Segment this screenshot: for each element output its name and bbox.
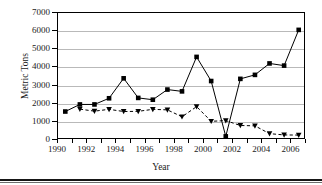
y-axis-title: Metric Tons xyxy=(20,33,30,119)
data-point xyxy=(78,102,83,107)
x-tick-label: 1990 xyxy=(48,145,66,154)
x-tick-label: 1998 xyxy=(165,145,183,154)
x-tick-mark xyxy=(261,139,262,143)
x-tick-mark xyxy=(130,139,131,143)
y-tick-label: 1000 xyxy=(32,116,50,125)
series-2 xyxy=(77,104,301,138)
data-point xyxy=(136,96,141,101)
x-tick-label: 2004 xyxy=(252,145,270,154)
x-tick-mark xyxy=(232,139,233,143)
x-tick-label: 1994 xyxy=(106,145,124,154)
x-tick-mark xyxy=(203,139,204,143)
x-tick-mark xyxy=(145,139,146,143)
bottom-rule xyxy=(0,179,322,181)
y-tick-label: 6000 xyxy=(32,26,50,35)
x-tick-mark xyxy=(247,139,248,143)
x-tick-label: 2000 xyxy=(194,145,212,154)
data-point xyxy=(180,89,185,94)
data-point xyxy=(179,114,185,119)
data-point xyxy=(282,63,287,68)
data-point xyxy=(267,61,272,66)
data-point xyxy=(238,77,243,82)
line-chart-figure: 01000200030004000500060007000 Metric Ton… xyxy=(0,0,322,185)
x-tick-mark xyxy=(305,139,306,143)
y-tick-label: 3000 xyxy=(32,80,50,89)
x-tick-mark xyxy=(72,139,73,143)
x-tick-mark xyxy=(101,139,102,143)
data-point xyxy=(223,134,228,139)
bottom-rule-shadow xyxy=(0,182,322,183)
data-point xyxy=(208,119,214,124)
x-tick-label: 2006 xyxy=(281,145,299,154)
y-tick-label: 0 xyxy=(46,135,51,144)
data-point xyxy=(106,107,112,112)
x-tick-mark xyxy=(86,139,87,143)
x-tick-mark xyxy=(290,139,291,143)
x-tick-mark xyxy=(174,139,175,143)
data-point xyxy=(194,55,199,60)
data-point xyxy=(121,76,126,81)
data-point xyxy=(267,131,273,136)
y-tick-label: 5000 xyxy=(32,44,50,53)
data-point xyxy=(63,109,68,114)
data-point xyxy=(253,73,258,78)
series-line xyxy=(65,30,298,136)
y-tick-label: 7000 xyxy=(32,8,50,17)
x-tick-label: 2002 xyxy=(223,145,241,154)
x-tick-mark xyxy=(115,139,116,143)
x-tick-mark xyxy=(188,139,189,143)
plot-area xyxy=(57,12,305,139)
series-1 xyxy=(63,28,301,139)
data-point xyxy=(209,79,214,84)
y-axis-title-wrap: Metric Tons xyxy=(8,0,28,152)
series-layer xyxy=(58,13,306,140)
x-tick-label: 1996 xyxy=(136,145,154,154)
x-tick-mark xyxy=(159,139,160,143)
data-point xyxy=(296,28,301,33)
x-tick-label: 1992 xyxy=(77,145,95,154)
y-tick-label: 4000 xyxy=(32,62,50,71)
data-point xyxy=(92,102,97,107)
x-tick-mark xyxy=(57,139,58,143)
y-tick-label: 2000 xyxy=(32,98,50,107)
series-line xyxy=(80,107,299,135)
data-point xyxy=(165,87,170,92)
x-axis-title: Year xyxy=(0,162,322,172)
x-tick-mark xyxy=(217,139,218,143)
data-point xyxy=(107,96,112,101)
x-tick-mark xyxy=(276,139,277,143)
chart-screenshot: 01000200030004000500060007000 Metric Ton… xyxy=(0,0,322,185)
data-point xyxy=(151,97,156,102)
